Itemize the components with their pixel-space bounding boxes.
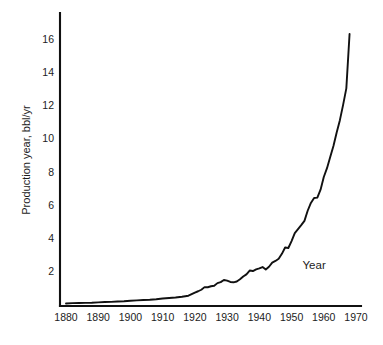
y-tick-label: 6 (48, 199, 54, 211)
x-tick-label: 1970 (344, 311, 368, 323)
x-tick-label: 1940 (248, 311, 272, 323)
chart-plot-area: 246810121416 188018901900191019201930194… (0, 0, 383, 345)
x-tick-label: 1950 (280, 311, 304, 323)
y-tick-label: 10 (42, 132, 54, 144)
x-tick-label: 1930 (215, 311, 239, 323)
y-tick-label: 14 (42, 66, 54, 78)
x-tick-label: 1920 (183, 311, 207, 323)
y-tick-label: 12 (42, 99, 54, 111)
x-axis-tick-labels: 1880189019001910192019301940195019601970 (54, 311, 368, 323)
y-axis-title: Production year, bbl/yr (20, 105, 32, 215)
y-tick-label: 16 (42, 33, 54, 45)
y-tick-label: 4 (48, 232, 54, 244)
chart-annotations: Year (302, 259, 325, 271)
x-tick-label: 1900 (119, 311, 143, 323)
y-tick-label: 2 (48, 265, 54, 277)
y-tick-label: 8 (48, 166, 54, 178)
y-axis-tick-labels: 246810121416 (42, 33, 54, 277)
chart-annotation-label: Year (302, 259, 325, 271)
oil-production-chart: 246810121416 188018901900191019201930194… (0, 0, 383, 345)
x-tick-label: 1890 (87, 311, 111, 323)
x-tick-label: 1910 (151, 311, 175, 323)
x-tick-label: 1880 (54, 311, 78, 323)
x-tick-label: 1960 (312, 311, 336, 323)
